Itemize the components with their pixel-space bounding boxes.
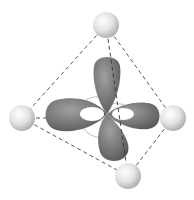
ligand-top — [93, 12, 119, 38]
tetrahedral-orbital-diagram — [0, 0, 194, 200]
ligand-right — [160, 105, 186, 131]
ligand-left — [9, 105, 35, 131]
ligand-bottom — [115, 163, 141, 189]
